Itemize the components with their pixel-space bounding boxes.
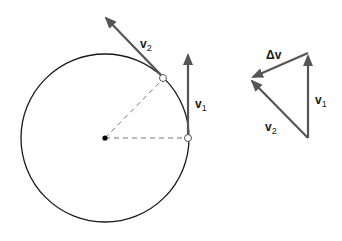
- label-v1: v1: [195, 97, 207, 113]
- triangle-vector-v2: [252, 81, 308, 138]
- velocity-diagram: v2 v1 Δv v1 v2: [0, 0, 342, 241]
- center-point: [102, 135, 107, 140]
- label-delta-v: Δv: [266, 48, 282, 62]
- position-point-2: [160, 75, 167, 82]
- vector-v2: [106, 18, 162, 76]
- position-point-1: [185, 135, 192, 142]
- label-triangle-v1: v1: [315, 93, 327, 109]
- radius-to-point-2: [105, 80, 162, 138]
- label-triangle-v2: v2: [265, 120, 277, 136]
- label-v2: v2: [140, 37, 152, 53]
- diagram-canvas: v2 v1 Δv v1 v2: [0, 0, 342, 241]
